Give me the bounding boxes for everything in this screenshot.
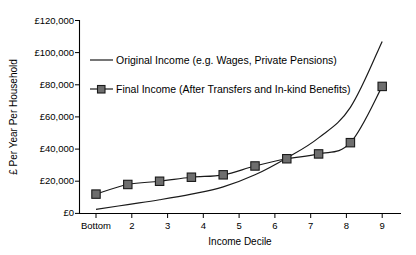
- legend-square-marker-final: [98, 86, 106, 94]
- x-tick-label-2: 2: [129, 220, 134, 231]
- x-tick-label-9: 9: [380, 220, 385, 231]
- data-point-marker: [283, 155, 291, 163]
- y-tick-label-60000: £60,000: [40, 111, 74, 122]
- x-tick-label-7: 7: [308, 220, 313, 231]
- data-point-marker: [187, 173, 195, 181]
- y-tick-label-40000: £40,000: [40, 143, 74, 154]
- x-tick-label-6: 6: [272, 220, 277, 231]
- y-tick-label-0: £0: [63, 207, 74, 218]
- x-tick-label-8: 8: [344, 220, 349, 231]
- chart-background: [0, 0, 416, 255]
- data-point-marker: [251, 162, 259, 170]
- y-axis-title: £ Per Year Per Household: [8, 59, 19, 175]
- data-point-marker: [314, 150, 322, 158]
- data-point-marker: [124, 180, 132, 188]
- income-decile-chart: £ Per Year Per Household £120,000 £100,0…: [0, 0, 416, 255]
- x-tick-label-bottom: Bottom: [81, 220, 111, 231]
- legend-label-original-income: Original Income (e.g. Wages, Private Pen…: [116, 54, 337, 66]
- x-axis-title: Income Decile: [208, 236, 272, 247]
- y-tick-label-120000: £120,000: [34, 15, 74, 26]
- data-point-marker: [92, 190, 100, 198]
- legend-label-final-income: Final Income (After Transfers and In-kin…: [116, 83, 351, 95]
- x-tick-label-4: 4: [201, 220, 206, 231]
- x-tick-label-3: 3: [165, 220, 170, 231]
- data-point-marker: [378, 82, 386, 90]
- data-point-marker: [219, 171, 227, 179]
- chart-canvas: £ Per Year Per Household £120,000 £100,0…: [0, 0, 416, 255]
- data-point-marker: [155, 177, 163, 185]
- x-tick-label-5: 5: [236, 220, 241, 231]
- y-tick-label-100000: £100,000: [34, 47, 74, 58]
- y-tick-label-20000: £20,000: [40, 175, 74, 186]
- data-point-marker: [346, 138, 354, 146]
- y-tick-label-80000: £80,000: [40, 79, 74, 90]
